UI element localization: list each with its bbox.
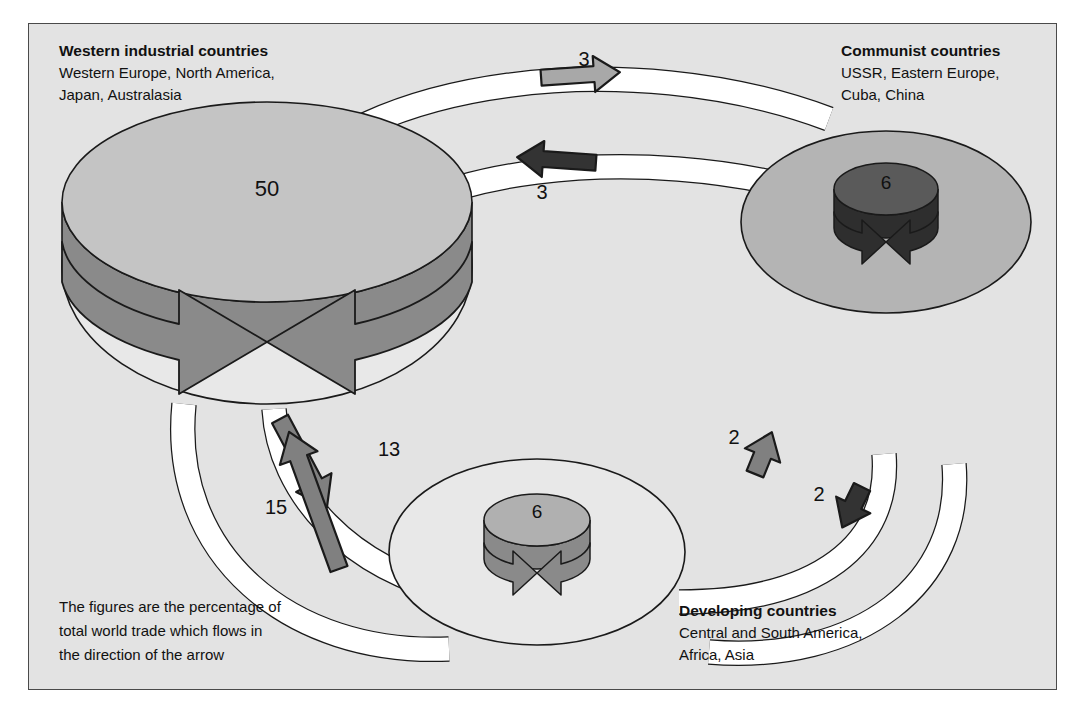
developing-subtitle-line-2: Africa, Asia	[679, 646, 755, 663]
arrow-developing-to-communist	[737, 425, 789, 481]
group-node-communist[interactable]: 6	[741, 131, 1031, 313]
communist-subtitle-line-1: USSR, Eastern Europe,	[841, 64, 999, 81]
western-cylinder-top	[62, 102, 472, 302]
figure-note: The figures are the percentage of total …	[59, 598, 282, 663]
group-node-western[interactable]: 50	[62, 102, 472, 404]
flow-label-developing-to-communist: 2	[728, 426, 739, 448]
communist-subtitle-line-2: Cuba, China	[841, 86, 925, 103]
group-label-communist: Communist countries USSR, Eastern Europe…	[841, 42, 1000, 103]
band-developing-communist-inner	[679, 454, 884, 602]
screenshot-stage: 50 6 6 3 3	[0, 0, 1076, 721]
trade-flow-diagram: 50 6 6 3 3	[29, 24, 1057, 690]
western-subtitle-line-1: Western Europe, North America,	[59, 64, 275, 81]
flow-label-developing-to-west: 15	[265, 496, 287, 518]
flow-label-communist-to-developing: 2	[813, 483, 824, 505]
flow-label-communist-to-west: 3	[536, 181, 547, 203]
diagram-panel: 50 6 6 3 3	[28, 23, 1057, 690]
western-title: Western industrial countries	[59, 42, 268, 59]
communist-internal-value: 6	[881, 172, 892, 193]
western-subtitle-line-2: Japan, Australasia	[59, 86, 182, 103]
group-label-western: Western industrial countries Western Eur…	[59, 42, 275, 103]
note-line-3: the direction of the arrow	[59, 646, 224, 663]
developing-internal-value: 6	[532, 501, 543, 522]
note-line-2: total world trade which flows in	[59, 622, 262, 639]
group-node-developing[interactable]: 6	[389, 459, 685, 645]
developing-title: Developing countries	[679, 602, 837, 619]
flow-label-west-to-developing: 13	[378, 438, 400, 460]
flow-label-west-to-communist: 3	[578, 48, 589, 70]
developing-subtitle-line-1: Central and South America,	[679, 624, 862, 641]
communist-title: Communist countries	[841, 42, 1000, 59]
note-line-1: The figures are the percentage of	[59, 598, 282, 615]
western-internal-value: 50	[255, 176, 279, 201]
